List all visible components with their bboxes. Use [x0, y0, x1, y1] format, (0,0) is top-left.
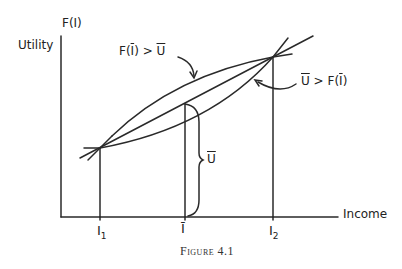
tick-label-ibar: Ī	[181, 222, 185, 235]
annotation-ubar-greater-f-ibar: U > F(I)	[301, 75, 347, 87]
annotation-f-ibar-greater-ubar: F(I) > U	[119, 45, 165, 57]
y-axis-label: Utility	[18, 39, 53, 51]
tick-label-i1: I1	[97, 224, 107, 237]
tick-label-i2: I2	[269, 224, 279, 237]
brace-label-ubar: U	[207, 153, 216, 165]
chord-line	[80, 36, 313, 158]
y-axis-top-label: F(I)	[62, 17, 82, 29]
figure-caption: Figure 4.1	[180, 244, 234, 259]
figure-4-1: F(I) Utility Income I1 Ī I2 F(I) > U U >…	[0, 0, 402, 269]
x-axis-label: Income	[343, 208, 387, 220]
utility-diagram	[0, 0, 402, 269]
lower-annotation-arrow	[258, 82, 296, 89]
